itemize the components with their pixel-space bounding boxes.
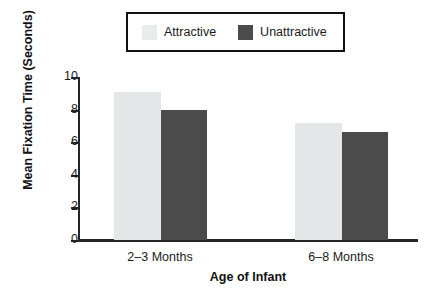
bar-attractive-2-3-months — [114, 92, 161, 240]
y-axis-title: Mean Fixation Time (Seconds) — [21, 10, 35, 190]
bar-unattractive-6-8-months — [342, 132, 388, 240]
x-tick-label-2-3-months: 2–3 Months — [100, 250, 220, 264]
bar-series-container — [0, 0, 431, 240]
x-tick-label-6-8-months: 6–8 Months — [281, 250, 401, 264]
bar-chart: Attractive Unattractive 10 8 6 4 2 — [0, 0, 431, 306]
bar-unattractive-2-3-months — [161, 110, 207, 240]
x-axis-title: Age of Infant — [78, 270, 418, 284]
bar-attractive-6-8-months — [295, 123, 342, 240]
plot-area: 10 8 6 4 2 0 — [0, 0, 431, 306]
